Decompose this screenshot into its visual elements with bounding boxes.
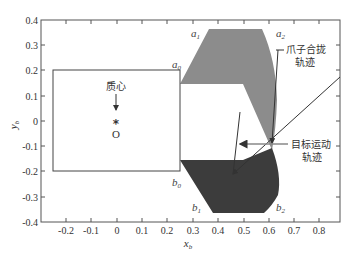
point-label-b2: b2 [276,201,286,215]
svg-text:0.1: 0.1 [26,91,39,102]
origin-label: O [112,128,120,140]
svg-text:0.4: 0.4 [26,15,39,26]
svg-text:-0.3: -0.3 [22,192,38,203]
svg-text:0.7: 0.7 [288,225,301,236]
point-label-a1: a1 [191,27,200,41]
point-label-a0: a0 [172,58,182,72]
point-label-a2: a2 [276,27,286,41]
claw-trajectory-label-line2: 轨迹 [295,56,315,68]
target-trajectory-label-line1: 目标运动 [291,139,331,150]
svg-text:0.6: 0.6 [263,225,276,236]
svg-text:-0.1: -0.1 [22,141,38,152]
svg-text:-0.4: -0.4 [22,217,38,228]
svg-text:-0.1: -0.1 [83,225,99,236]
svg-text:0: 0 [115,225,120,236]
claw-workspace-chart: -0.2 -0.1 0 0.1 0.2 0.3 0.4 0.5 0.6 0.7 … [0,0,356,260]
svg-text:-0.2: -0.2 [58,225,74,236]
svg-text:0.5: 0.5 [238,225,251,236]
x-axis-label: xb [183,237,193,251]
y-tick-labels: 0.4 0.3 0.2 0.1 0 -0.1 -0.2 -0.3 -0.4 [22,15,38,228]
svg-text:0.8: 0.8 [313,225,326,236]
x-tick-labels: -0.2 -0.1 0 0.1 0.2 0.3 0.4 0.5 0.6 0.7 … [58,225,325,236]
claw-trajectory-label-line1: 爪子合拢 [286,43,326,55]
center-of-mass-label: 质心 [106,81,126,92]
upper-claw-sweep-area [180,29,277,150]
point-label-b0: b0 [172,176,182,190]
svg-text:0.4: 0.4 [212,225,225,236]
svg-text:-0.2: -0.2 [22,166,38,177]
svg-text:0.3: 0.3 [26,40,39,51]
svg-text:0.2: 0.2 [161,225,174,236]
target-trajectory-label-line2: 轨迹 [302,151,322,163]
point-label-b1: b1 [192,201,201,215]
svg-text:0: 0 [33,116,38,127]
svg-text:0.2: 0.2 [26,65,39,76]
y-axis-label: yb [7,120,21,130]
svg-text:0.1: 0.1 [136,225,149,236]
svg-text:0.3: 0.3 [187,225,200,236]
